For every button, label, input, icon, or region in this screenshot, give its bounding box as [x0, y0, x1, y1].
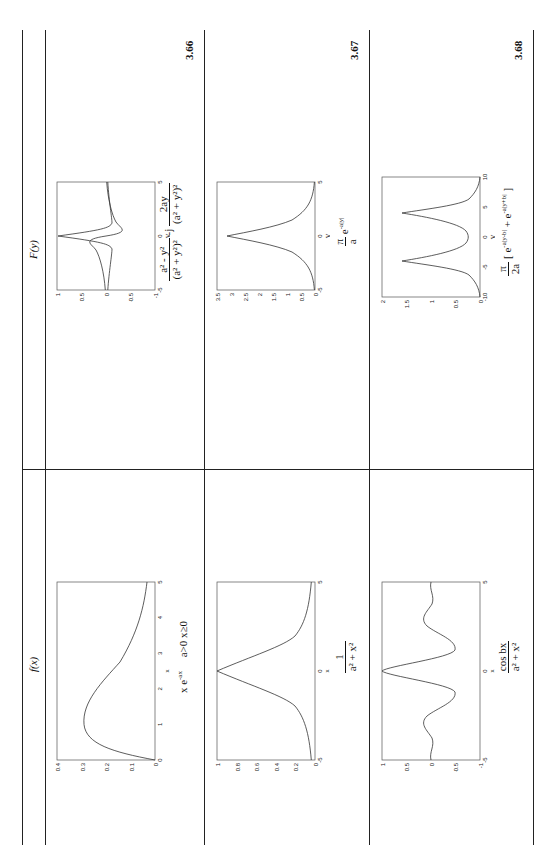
svg-text:x: x	[489, 670, 495, 673]
svg-text:0: 0	[482, 669, 488, 673]
svg-text:5: 5	[482, 580, 488, 584]
svg-text:1: 1	[429, 299, 435, 303]
chart-3-66-F: 1 0.5 0 -0.5 -1 -5 0 5 y	[52, 174, 170, 302]
rule-row-3-66	[204, 30, 205, 845]
svg-text:0.4: 0.4	[55, 762, 61, 771]
svg-text:2: 2	[380, 299, 386, 303]
svg-text:2.5: 2.5	[243, 292, 249, 301]
svg-text:0: 0	[317, 669, 323, 673]
svg-text:-1: -1	[478, 762, 484, 768]
svg-text:0.2: 0.2	[104, 762, 110, 771]
svg-text:5: 5	[482, 205, 488, 209]
equation-number: 3.67	[348, 41, 360, 60]
svg-text:y: y	[487, 234, 495, 239]
svg-text:0: 0	[313, 762, 319, 766]
svg-text:1: 1	[215, 762, 221, 766]
chart-3-67-f: 0 0.2 0.4 0.6 0.8 1 -5 0 5 x	[212, 572, 330, 772]
equation-number: 3.68	[512, 41, 524, 60]
svg-text:y: y	[322, 233, 330, 238]
rotated-table-page: f(x) F(y) 3.66 3.67 3.68 0 0.1 0.2 0.3 0…	[0, 0, 554, 857]
svg-text:0.8: 0.8	[235, 762, 241, 771]
formula-3-67-F: πa e-a|y|	[333, 152, 358, 312]
svg-text:1: 1	[55, 292, 61, 296]
svg-text:0: 0	[153, 762, 159, 766]
svg-text:3: 3	[157, 651, 163, 655]
svg-text:3: 3	[229, 292, 235, 296]
svg-text:1.5: 1.5	[271, 292, 277, 301]
svg-text:5: 5	[317, 180, 323, 184]
svg-text:-0.5: -0.5	[453, 762, 459, 772]
formula-3-67-f: 1a² + x²	[333, 577, 358, 737]
rule-row-3-67	[369, 30, 370, 845]
svg-text:0.1: 0.1	[129, 762, 135, 771]
rule-header-bottom	[45, 30, 46, 845]
svg-text:-5: -5	[482, 264, 488, 270]
svg-text:3.5: 3.5	[215, 292, 221, 301]
svg-text:0: 0	[313, 292, 319, 296]
formula-3-66-F: a² - y²(a² + y²)² -j 2ay(a² + y²)²	[157, 152, 182, 312]
svg-text:-5: -5	[317, 757, 323, 763]
header-F-y: F(y)	[27, 240, 39, 259]
equation-number: 3.66	[183, 41, 195, 60]
svg-text:-5: -5	[317, 287, 323, 293]
svg-text:1: 1	[380, 762, 386, 766]
formula-3-66-f: x e-ax a>0 x≥0	[176, 577, 189, 737]
chart-3-68-f: 1 0.5 0 -0.5 -1 -5 0 5 x	[377, 572, 495, 772]
rule-row-3-68	[533, 30, 534, 845]
svg-text:0: 0	[104, 292, 110, 296]
svg-text:5: 5	[317, 580, 323, 584]
svg-text:0.2: 0.2	[293, 762, 299, 771]
formula-3-68-F: π2a [ e-a|y-b| + e-a|y+b| ]	[496, 142, 521, 322]
svg-text:1.5: 1.5	[404, 299, 410, 308]
svg-text:4: 4	[157, 615, 163, 619]
chart-3-67-F: 0 0.5 1 1.5 2 2.5 3 3.5 -5 0 5 y	[212, 174, 330, 302]
svg-text:0.6: 0.6	[254, 762, 260, 771]
svg-text:0.5: 0.5	[299, 292, 305, 301]
header-f-x: f(x)	[27, 657, 39, 672]
svg-text:10: 10	[482, 173, 488, 180]
svg-text:-0.5: -0.5	[128, 292, 134, 302]
svg-text:x: x	[324, 670, 330, 673]
chart-3-68-F: 0 0.5 1 1.5 2 -10 -5 0 5 10 y	[377, 169, 495, 309]
svg-text:0: 0	[157, 758, 163, 762]
svg-text:1: 1	[285, 292, 291, 296]
chart-3-66-f: 0 0.1 0.2 0.3 0.4 0 1 2 3 4 5 x	[52, 572, 170, 772]
svg-text:2: 2	[157, 686, 163, 690]
svg-text:1: 1	[157, 722, 163, 726]
formula-3-68-f: cos bxa² + x²	[496, 577, 521, 737]
svg-text:x: x	[164, 670, 170, 673]
svg-text:0.4: 0.4	[274, 762, 280, 771]
svg-text:0.5: 0.5	[453, 299, 459, 308]
svg-text:0.5: 0.5	[404, 762, 410, 771]
svg-text:2: 2	[257, 292, 263, 296]
svg-text:-5: -5	[482, 757, 488, 763]
svg-text:0.5: 0.5	[79, 292, 85, 301]
rule-top-outer	[22, 30, 23, 845]
svg-text:5: 5	[157, 580, 163, 584]
svg-text:-10: -10	[482, 292, 488, 301]
svg-text:0.3: 0.3	[80, 762, 86, 771]
svg-text:0: 0	[429, 762, 435, 766]
rule-column-divider	[22, 469, 534, 470]
